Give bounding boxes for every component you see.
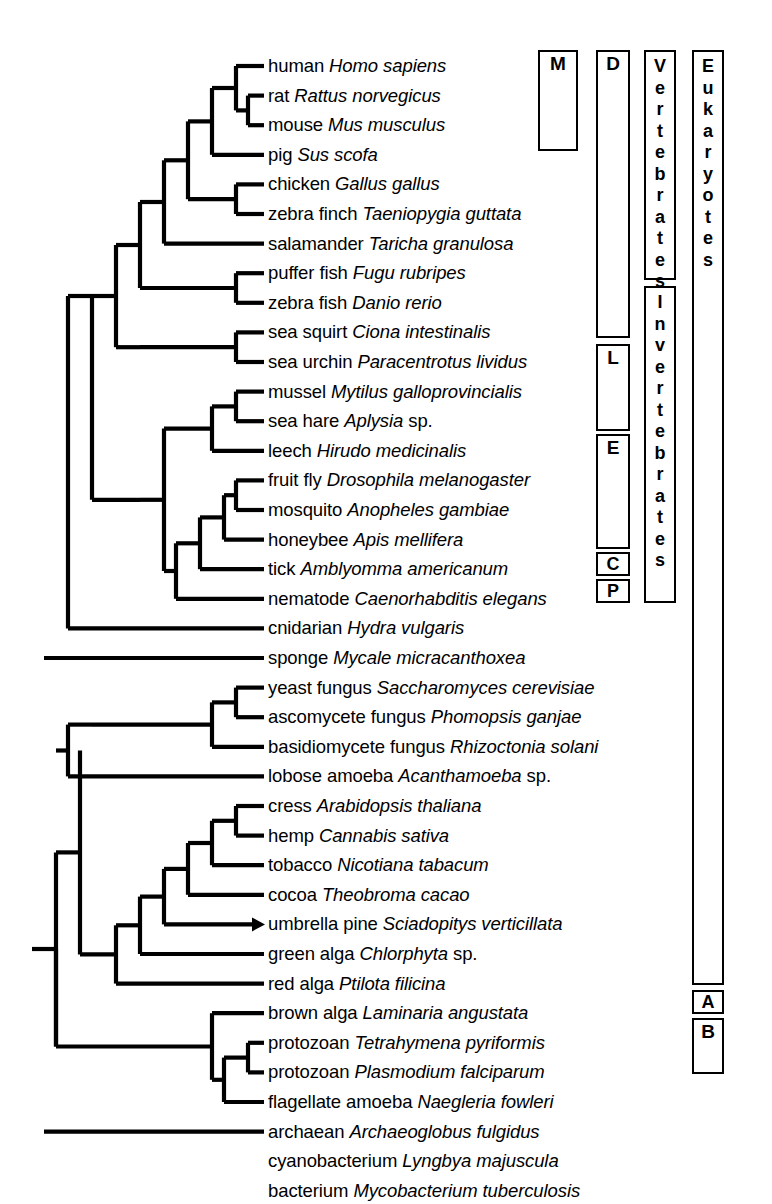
group-box-eukaryotes: Eukaryotes <box>692 50 724 985</box>
taxon-scientific-name: Ptilota filicina <box>339 973 445 994</box>
taxon-scientific-name: Mus musculus <box>328 114 445 135</box>
taxon-label: red alga Ptilota filicina <box>268 971 445 997</box>
taxon-label: sea squirt Ciona intestinalis <box>268 319 490 345</box>
taxon-scientific-name: Sus scofa <box>297 144 377 165</box>
taxon-common-name: hemp <box>268 825 319 846</box>
taxon-common-name: red alga <box>268 973 339 994</box>
group-box-label: M <box>540 54 576 73</box>
taxon-common-name: chicken <box>268 173 335 194</box>
taxon-common-name: zebra fish <box>268 292 352 313</box>
taxon-common-name: bacterium <box>268 1180 353 1201</box>
taxon-scientific-name: Plasmodium falciparum <box>354 1061 544 1082</box>
taxon-common-name: ascomycete fungus <box>268 706 431 727</box>
taxon-common-name: cocoa <box>268 884 322 905</box>
taxon-label: umbrella pine Sciadopitys verticillata <box>268 911 562 937</box>
taxon-common-name: tobacco <box>268 854 337 875</box>
group-box-c: C <box>596 552 630 576</box>
taxon-scientific-name: Theobroma cacao <box>322 884 470 905</box>
taxon-label: bacterium Mycobacterium tuberculosis <box>268 1178 580 1204</box>
taxon-scientific-name: Fugu rubripes <box>353 262 466 283</box>
group-box-label: D <box>598 54 628 73</box>
taxon-scientific-name: Danio rerio <box>352 292 441 313</box>
taxon-common-name: pig <box>268 144 297 165</box>
taxon-name-suffix: sp. <box>522 765 551 786</box>
taxon-common-name: sponge <box>268 647 333 668</box>
taxon-label: zebra finch Taeniopygia guttata <box>268 201 521 227</box>
taxon-scientific-name: Archaeoglobus fulgidus <box>349 1121 539 1142</box>
taxon-label: puffer fish Fugu rubripes <box>268 260 466 286</box>
taxon-common-name: basidiomycete fungus <box>268 736 450 757</box>
taxon-scientific-name: Amblyomma americanum <box>300 558 508 579</box>
taxon-common-name: zebra finch <box>268 203 362 224</box>
taxon-label: cress Arabidopsis thaliana <box>268 793 481 819</box>
taxon-scientific-name: Sciadopitys verticillata <box>383 913 563 934</box>
taxon-name-suffix: sp. <box>448 943 477 964</box>
group-box-e: E <box>596 434 630 549</box>
taxon-common-name: archaean <box>268 1121 349 1142</box>
taxon-common-name: human <box>268 55 329 76</box>
taxon-common-name: mussel <box>268 381 331 402</box>
group-box-label: E <box>598 438 628 457</box>
group-box-label: P <box>598 581 628 601</box>
taxon-label: archaean Archaeoglobus fulgidus <box>268 1119 540 1145</box>
taxon-scientific-name: Saccharomyces cerevisiae <box>377 677 595 698</box>
taxon-label: fruit fly Drosophila melanogaster <box>268 467 530 493</box>
taxon-common-name: cress <box>268 795 317 816</box>
taxon-label: honeybee Apis mellifera <box>268 527 463 553</box>
group-box-invertebrates: Invertebrates <box>644 286 676 603</box>
taxon-scientific-name: Rhizoctonia solani <box>450 736 598 757</box>
taxon-label: protozoan Plasmodium falciparum <box>268 1059 545 1085</box>
taxon-scientific-name: Ciona intestinalis <box>352 321 490 342</box>
group-box-p: P <box>596 579 630 603</box>
taxon-scientific-name: Chlorphyta <box>359 943 447 964</box>
group-box-b: B <box>692 1018 724 1074</box>
group-box-m: M <box>538 50 578 151</box>
taxon-common-name: umbrella pine <box>268 913 383 934</box>
taxon-common-name: mouse <box>268 114 328 135</box>
taxon-label: leech Hirudo medicinalis <box>268 438 466 464</box>
taxon-label: sea hare Aplysia sp. <box>268 408 433 434</box>
taxon-common-name: fruit fly <box>268 469 327 490</box>
taxon-common-name: brown alga <box>268 1002 363 1023</box>
taxon-scientific-name: Arabidopsis thaliana <box>317 795 482 816</box>
taxon-common-name: tick <box>268 558 300 579</box>
taxon-label: mouse Mus musculus <box>268 112 445 138</box>
group-box-label: A <box>694 992 722 1012</box>
taxon-common-name: yeast fungus <box>268 677 377 698</box>
taxon-common-name: cyanobacterium <box>268 1150 402 1171</box>
taxon-common-name: salamander <box>268 233 369 254</box>
group-box-label: Invertebrates <box>646 292 674 572</box>
taxon-scientific-name: Rattus norvegicus <box>294 85 440 106</box>
group-box-d: D <box>596 50 630 338</box>
taxon-label: green alga Chlorphyta sp. <box>268 941 477 967</box>
taxon-scientific-name: Laminaria angustata <box>363 1002 529 1023</box>
taxon-label: mosquito Anopheles gambiae <box>268 497 509 523</box>
taxon-scientific-name: Mytilus galloprovincialis <box>331 381 522 402</box>
taxon-label: lobose amoeba Acanthamoeba sp. <box>268 763 551 789</box>
taxon-label: pig Sus scofa <box>268 142 378 168</box>
taxon-scientific-name: Aplysia <box>344 410 403 431</box>
taxon-common-name: green alga <box>268 943 359 964</box>
taxon-label: cyanobacterium Lyngbya majuscula <box>268 1148 559 1174</box>
taxon-scientific-name: Homo sapiens <box>329 55 446 76</box>
group-box-label: C <box>598 554 628 574</box>
taxon-label: salamander Taricha granulosa <box>268 231 513 257</box>
taxon-common-name: nematode <box>268 588 355 609</box>
taxon-scientific-name: Drosophila melanogaster <box>327 469 530 490</box>
taxon-common-name: flagellate amoeba <box>268 1091 417 1112</box>
group-box-label: L <box>598 348 628 367</box>
taxon-label: tobacco Nicotiana tabacum <box>268 852 489 878</box>
taxon-common-name: mosquito <box>268 499 347 520</box>
taxon-scientific-name: Hirudo medicinalis <box>317 440 466 461</box>
taxon-common-name: cnidarian <box>268 617 347 638</box>
taxon-label: basidiomycete fungus Rhizoctonia solani <box>268 734 598 760</box>
taxon-name-suffix: sp. <box>403 410 432 431</box>
taxon-scientific-name: Acanthamoeba <box>398 765 521 786</box>
group-box-label: Vertebrates <box>646 56 674 293</box>
taxon-label: sea urchin Paracentrotus lividus <box>268 349 527 375</box>
taxon-label: hemp Cannabis sativa <box>268 823 449 849</box>
taxon-label: cocoa Theobroma cacao <box>268 882 470 908</box>
taxon-common-name: sea urchin <box>268 351 357 372</box>
taxon-common-name: leech <box>268 440 317 461</box>
